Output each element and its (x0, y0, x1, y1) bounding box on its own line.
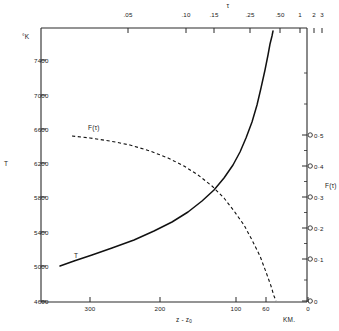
temperature-curve-label: T (74, 252, 78, 259)
chart-figure (0, 0, 339, 331)
bottom-tick-4: 0 (306, 305, 310, 312)
left-tick-6: 5000 (34, 263, 49, 270)
right-axis-label: F(τ) (325, 182, 337, 189)
left-tick-4: 5800 (34, 194, 49, 201)
flux-curve-label: F(τ) (88, 124, 100, 131)
top-axis-ticks (128, 28, 322, 33)
right-tick-3: 0·2 (314, 225, 324, 232)
temperature-curve (60, 31, 273, 266)
top-tick-5: 1 (298, 11, 302, 18)
left-axis-label: T (4, 160, 8, 167)
right-tick-0: 0·5 (314, 132, 324, 139)
bottom-tick-2: 100 (231, 305, 242, 312)
right-tick-1: 0·4 (314, 163, 324, 170)
bottom-tick-0: 300 (85, 305, 96, 312)
left-tick-0: 7400 (34, 57, 49, 64)
left-tick-7: 4600 (34, 298, 49, 305)
right-tick-2: 0·3 (314, 194, 324, 201)
top-tick-6: 2 (312, 11, 316, 18)
right-tick-4: 0·1 (314, 256, 324, 263)
bottom-tick-3: 60 (262, 305, 269, 312)
left-tick-1: 7000 (34, 92, 49, 99)
bottom-tick-1: 200 (155, 305, 166, 312)
top-axis-label: τ (227, 2, 230, 9)
top-tick-0: .05 (123, 11, 132, 18)
right-axis-ticks (302, 73, 307, 301)
top-tick-4: .50 (275, 11, 284, 18)
left-tick-5: 5400 (34, 229, 49, 236)
top-tick-1: .10 (181, 11, 190, 18)
bottom-axis-label: z - z0 (176, 316, 192, 324)
left-tick-3: 6200 (34, 160, 49, 167)
top-tick-2: .15 (209, 11, 218, 18)
top-tick-7: 3 (320, 11, 324, 18)
left-tick-2: 6600 (34, 126, 49, 133)
flux-curve (72, 136, 276, 301)
right-tick-5: 0 (314, 298, 318, 305)
bottom-axis-ticks (90, 297, 308, 302)
bottom-axis-unit: KM. (283, 316, 295, 323)
bottom-axis-label-text: z - z (176, 316, 189, 323)
top-tick-3: .25 (245, 11, 254, 18)
bottom-axis-label-subscript: 0 (189, 319, 192, 324)
right-axis-tick-markers (308, 133, 312, 303)
left-axis-unit: °K (22, 33, 29, 40)
plot-frame (41, 28, 307, 302)
left-axis-unit-text: °K (22, 33, 29, 40)
